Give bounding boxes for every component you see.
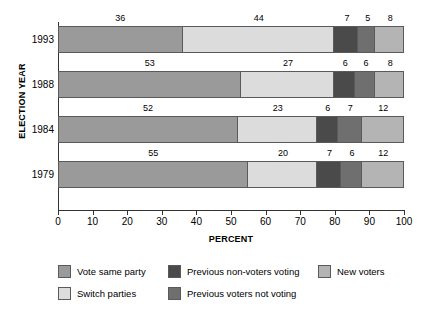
x-axis-tick bbox=[93, 210, 94, 215]
bar-row bbox=[58, 71, 404, 98]
bar-value-labels: 52236712 bbox=[58, 103, 404, 116]
bar-segment bbox=[183, 27, 334, 52]
x-axis-tick bbox=[369, 210, 370, 215]
bar-segment-value: 7 bbox=[348, 103, 353, 113]
legend-label: New voters bbox=[337, 266, 385, 277]
x-axis-tick-label: 20 bbox=[122, 216, 133, 227]
x-axis-tick bbox=[58, 210, 59, 215]
bar-segment bbox=[248, 162, 317, 187]
bar-segment-value: 12 bbox=[378, 148, 388, 158]
legend-item: Previous non-voters voting bbox=[168, 260, 299, 282]
legend-item: Previous voters not voting bbox=[168, 282, 299, 304]
x-axis-tick-label: 10 bbox=[87, 216, 98, 227]
bar-segment-value: 23 bbox=[273, 103, 283, 113]
legend-swatch-icon bbox=[168, 287, 181, 300]
bar-segment-value: 8 bbox=[388, 58, 393, 68]
x-axis-tick bbox=[162, 210, 163, 215]
bar-track bbox=[58, 26, 404, 53]
bar-segment bbox=[59, 72, 241, 97]
bar-segment bbox=[341, 162, 362, 187]
bar-segment-value: 6 bbox=[350, 148, 355, 158]
x-axis-tick bbox=[127, 210, 128, 215]
bar-segment-value: 44 bbox=[254, 13, 264, 23]
bar-segment bbox=[334, 27, 358, 52]
bar-segment bbox=[375, 72, 403, 97]
bar-segment-value: 27 bbox=[283, 58, 293, 68]
bar-value-labels: 55207612 bbox=[58, 148, 404, 161]
legend-swatch-icon bbox=[58, 265, 71, 278]
x-axis-tick-label: 30 bbox=[156, 216, 167, 227]
bar-segment-value: 6 bbox=[325, 103, 330, 113]
bar-track bbox=[58, 71, 404, 98]
x-axis-tick bbox=[266, 210, 267, 215]
bar-segment bbox=[241, 72, 334, 97]
stacked-bar-chart: ELECTION YEAR 36447585327668522367125520… bbox=[0, 0, 422, 317]
x-axis-tick bbox=[335, 210, 336, 215]
x-axis-tick-label: 100 bbox=[396, 216, 413, 227]
bar-row bbox=[58, 116, 404, 143]
legend-column: Previous non-voters votingPrevious voter… bbox=[168, 260, 299, 304]
x-axis-tick-label: 90 bbox=[364, 216, 375, 227]
bar-segment-value: 6 bbox=[363, 58, 368, 68]
x-axis-tick-label: 0 bbox=[55, 216, 61, 227]
legend-swatch-icon bbox=[58, 287, 71, 300]
bar-segment bbox=[355, 72, 376, 97]
chart-legend: Vote same partySwitch partiesPrevious no… bbox=[58, 260, 418, 306]
bar-value-labels: 5327668 bbox=[58, 58, 404, 71]
bar-row bbox=[58, 26, 404, 53]
bar-segment-value: 52 bbox=[143, 103, 153, 113]
bar-segment bbox=[358, 27, 375, 52]
bar-segment bbox=[334, 72, 355, 97]
x-axis-tick-label: 50 bbox=[225, 216, 236, 227]
bar-segment bbox=[338, 117, 362, 142]
x-axis-tick bbox=[300, 210, 301, 215]
legend-label: Switch parties bbox=[77, 288, 136, 299]
bar-segment-value: 20 bbox=[278, 148, 288, 158]
bar-row bbox=[58, 161, 404, 188]
y-axis-category-label: 1988 bbox=[10, 71, 54, 98]
bar-segment-value: 55 bbox=[148, 148, 158, 158]
legend-swatch-icon bbox=[168, 265, 181, 278]
y-axis-category-label: 1984 bbox=[10, 116, 54, 143]
x-axis-tick-label: 40 bbox=[191, 216, 202, 227]
x-axis-title: PERCENT bbox=[58, 234, 404, 244]
bar-segment bbox=[317, 162, 341, 187]
bar-segment-value: 7 bbox=[327, 148, 332, 158]
bar-segment-value: 7 bbox=[344, 13, 349, 23]
bar-segment bbox=[375, 27, 403, 52]
x-axis-tick-label: 60 bbox=[260, 216, 271, 227]
bar-segment bbox=[238, 117, 317, 142]
bar-segment-value: 36 bbox=[115, 13, 125, 23]
bar-segment bbox=[59, 27, 183, 52]
y-axis-category-label: 1993 bbox=[10, 26, 54, 53]
bar-value-labels: 3644758 bbox=[58, 13, 404, 26]
bar-segment-value: 12 bbox=[378, 103, 388, 113]
x-axis-tick bbox=[404, 210, 405, 215]
bar-segment-value: 5 bbox=[365, 13, 370, 23]
x-axis-tick bbox=[231, 210, 232, 215]
y-axis-category-label: 1979 bbox=[10, 161, 54, 188]
legend-item: New voters bbox=[318, 260, 385, 282]
bar-segment-value: 8 bbox=[388, 13, 393, 23]
legend-column: Vote same partySwitch parties bbox=[58, 260, 146, 304]
bar-segment-value: 53 bbox=[145, 58, 155, 68]
legend-label: Previous voters not voting bbox=[187, 288, 296, 299]
legend-item: Vote same party bbox=[58, 260, 146, 282]
bar-segment bbox=[317, 117, 338, 142]
legend-label: Previous non-voters voting bbox=[187, 266, 299, 277]
bar-segment bbox=[59, 162, 248, 187]
legend-item: Switch parties bbox=[58, 282, 146, 304]
x-axis-tick bbox=[196, 210, 197, 215]
bar-track bbox=[58, 161, 404, 188]
bar-segment-value: 6 bbox=[343, 58, 348, 68]
bar-segment bbox=[59, 117, 238, 142]
bar-segment bbox=[362, 162, 403, 187]
bar-track bbox=[58, 116, 404, 143]
bar-segment bbox=[362, 117, 403, 142]
legend-swatch-icon bbox=[318, 265, 331, 278]
x-axis-tick-label: 70 bbox=[295, 216, 306, 227]
x-axis-tick-label: 80 bbox=[329, 216, 340, 227]
legend-column: New voters bbox=[318, 260, 385, 282]
legend-label: Vote same party bbox=[77, 266, 146, 277]
